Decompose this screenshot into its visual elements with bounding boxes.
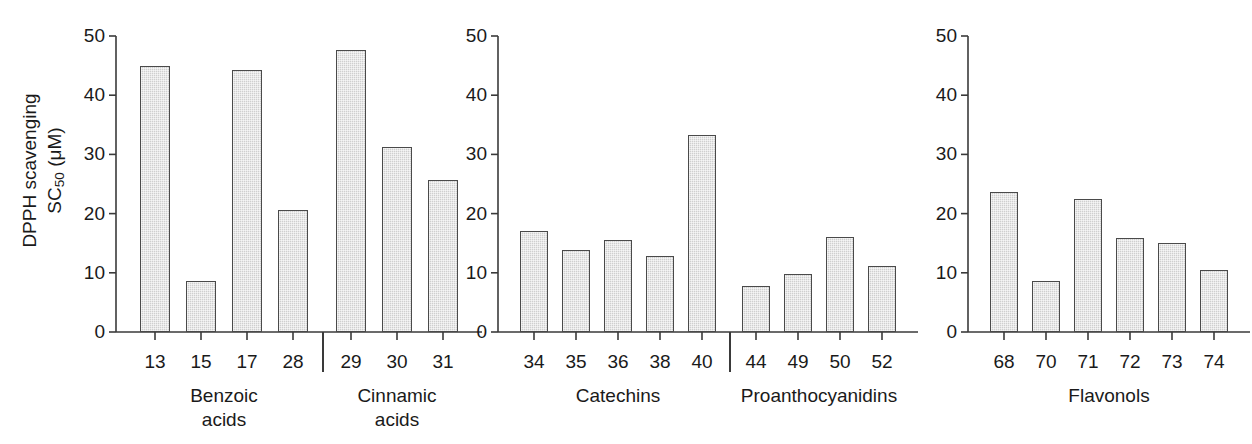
y-axis-title-units: (μM) [44,127,65,172]
group-separator [729,332,731,372]
group-label-line: Benzoic [190,384,258,408]
x-axis-tick-label-70: 70 [1035,352,1056,371]
x-axis-tick-label-34: 34 [523,352,544,371]
x-axis-tick-label-44: 44 [745,352,766,371]
group-label-benzoic-acids: Benzoicacids [190,384,258,432]
bar-35[interactable] [562,250,590,332]
y-axis-title-sc: SC [44,187,65,213]
bars-container [86,36,478,332]
x-axis-tick-label-13: 13 [144,352,165,371]
bar-40[interactable] [688,135,716,332]
bar-71[interactable] [1074,199,1102,332]
x-axis-tick-label-71: 71 [1077,352,1098,371]
x-axis-tick-label-38: 38 [649,352,670,371]
bar-74[interactable] [1200,270,1228,332]
bar-72[interactable] [1116,238,1144,332]
x-axis-tick-label-29: 29 [340,352,361,371]
chart-panel-2: 50403020100343536384044495052CatechinsPr… [468,0,908,444]
x-axis-tick-label-17: 17 [236,352,257,371]
x-axis-tick-label-40: 40 [691,352,712,371]
x-axis-tick-label-31: 31 [432,352,453,371]
bar-28[interactable] [278,210,308,332]
bar-17[interactable] [232,70,262,332]
x-axis-tick-label-52: 52 [871,352,892,371]
x-axis-tick-label-74: 74 [1203,352,1224,371]
group-label-catechins: Catechins [576,384,661,408]
y-axis-title: DPPH scavenging SC50 (μM) [2,0,86,340]
bar-36[interactable] [604,240,632,332]
group-label-cinnamic-acids: Cinnamicacids [357,384,436,432]
bar-15[interactable] [186,281,216,332]
x-axis-tick-label-28: 28 [282,352,303,371]
bar-13[interactable] [140,66,170,332]
bar-29[interactable] [336,50,366,332]
group-label-flavonols: Flavonols [1068,384,1149,408]
chart-panel-1: 5040302010013151728293031BenzoicacidsCin… [86,0,478,444]
group-label-line: Proanthocyanidins [741,384,897,408]
chart-panel-3: 50403020100687071727374Flavonols [938,0,1252,444]
y-axis-title-subscript: 50 [52,172,67,187]
bars-container [468,36,908,332]
group-label-line: acids [190,408,258,432]
y-axis-title-line1: DPPH scavenging [17,93,42,247]
bar-70[interactable] [1032,281,1060,333]
bar-68[interactable] [990,192,1018,332]
bar-44[interactable] [742,286,770,332]
bars-container [938,36,1252,332]
bar-50[interactable] [826,237,854,332]
group-label-proanthocyanidins: Proanthocyanidins [741,384,897,408]
group-label-line: Cinnamic [357,384,436,408]
group-separator [322,332,324,372]
x-axis-tick-label-35: 35 [565,352,586,371]
bar-73[interactable] [1158,243,1186,332]
bar-52[interactable] [868,266,896,332]
x-axis-tick-label-68: 68 [993,352,1014,371]
figure-root: DPPH scavenging SC50 (μM) 50403020100131… [0,0,1252,444]
group-label-line: Flavonols [1068,384,1149,408]
x-axis-tick-label-73: 73 [1161,352,1182,371]
x-axis-tick-label-36: 36 [607,352,628,371]
x-axis-tick-label-50: 50 [829,352,850,371]
x-axis-tick-label-49: 49 [787,352,808,371]
bar-34[interactable] [520,231,548,332]
x-axis-tick-label-72: 72 [1119,352,1140,371]
x-axis-tick-label-15: 15 [190,352,211,371]
group-label-line: acids [357,408,436,432]
x-axis-tick-label-30: 30 [386,352,407,371]
group-label-line: Catechins [576,384,661,408]
y-axis-title-line2: SC50 (μM) [42,93,72,247]
bar-30[interactable] [382,147,412,332]
bar-31[interactable] [428,180,458,332]
bar-49[interactable] [784,274,812,332]
bar-38[interactable] [646,256,674,332]
